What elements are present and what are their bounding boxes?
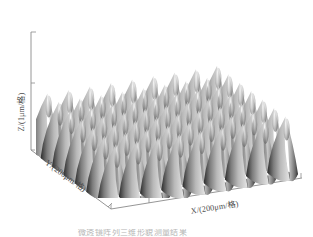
surface-mesh: [29, 66, 298, 209]
z-axis-label: Z/(1μm/格): [16, 92, 26, 131]
surface-plot-figure: Z/(1μm/格) Y/(200μm/格) X/(200μm/格) 微透镜阵列三…: [0, 0, 313, 237]
surface-plot-svg: Z/(1μm/格) Y/(200μm/格) X/(200μm/格): [0, 0, 313, 237]
z-axis: [31, 32, 36, 150]
figure-caption: 微透镜阵列三维形貌测量结果: [78, 229, 187, 237]
x-axis-label: X/(200μm/格): [190, 198, 239, 215]
figure-caption-strip: 微透镜阵列三维形貌测量结果: [0, 229, 313, 237]
